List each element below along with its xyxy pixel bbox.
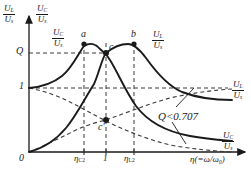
data-points xyxy=(81,41,136,123)
y-tick-1: 1 xyxy=(19,81,24,91)
x-tick-etaL2: ηL2 xyxy=(124,154,135,164)
plot-canvas xyxy=(0,0,251,172)
x-axis-label: η(=ω/ω₀) xyxy=(190,155,225,164)
origin-label: 0 xyxy=(19,153,24,163)
x-tick-1: 1 xyxy=(103,154,108,163)
point-a xyxy=(81,41,86,46)
label-point-c-prime: c′ xyxy=(98,122,105,132)
curve-label-ul-right: UL Us xyxy=(152,30,164,51)
y-tick-Q: Q xyxy=(16,46,23,56)
y-axis-label-uc: UC Us xyxy=(36,4,48,25)
annotation-q-threshold: Q<0.707 xyxy=(158,111,198,122)
curve-label-uc-left: UC Us xyxy=(52,28,64,49)
curve-label-ul-dashed: UL Us xyxy=(232,80,244,101)
y-axis-label-ul: UL Us xyxy=(3,4,15,25)
curve-label-uc-dashed: UC Us xyxy=(222,131,234,152)
x-tick-etaC2: ηC2 xyxy=(74,154,85,164)
resonance-curve-figure: UL Us UC Us Q 1 0 ηC2 1 ηL2 η(=ω/ω₀) a b… xyxy=(0,0,251,172)
point-b xyxy=(131,41,136,46)
label-point-a: a xyxy=(81,29,86,39)
label-point-b: b xyxy=(131,29,136,39)
label-point-c: c xyxy=(109,42,113,52)
